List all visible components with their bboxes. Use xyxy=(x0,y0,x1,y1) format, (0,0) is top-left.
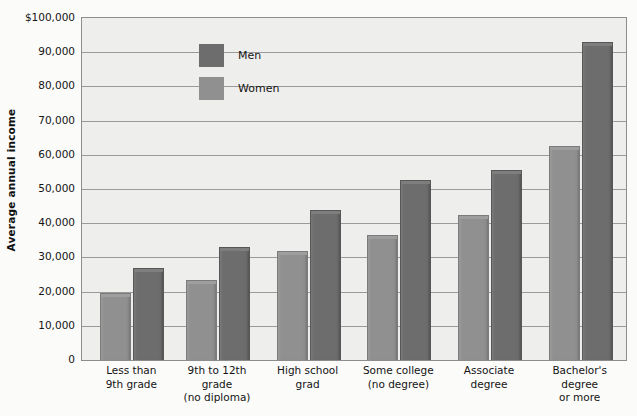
y-axis-tick: 30,000 xyxy=(38,250,75,262)
bar-face xyxy=(100,293,131,360)
bar-women xyxy=(458,215,489,360)
legend-swatch-men xyxy=(199,44,224,67)
bar-face xyxy=(219,247,250,360)
x-axis-label-line: (no degree) xyxy=(353,378,444,392)
bar-top-highlight xyxy=(311,211,340,214)
bar-face xyxy=(186,280,217,360)
x-axis-label-line: High school xyxy=(262,364,353,378)
bar-top-highlight xyxy=(187,281,216,284)
y-axis-title: Average annual income xyxy=(0,0,22,360)
y-axis-tick: 80,000 xyxy=(38,79,75,91)
x-axis-label-line: Less than xyxy=(86,364,177,378)
y-axis-tick: 10,000 xyxy=(38,319,75,331)
x-axis-label: Associatedegree xyxy=(444,364,535,391)
x-axis-label: Bachelor'sdegreeor more xyxy=(534,364,625,405)
y-axis-tick: 50,000 xyxy=(38,182,75,194)
bar-men xyxy=(219,247,250,360)
x-axis-label-line: Some college xyxy=(353,364,444,378)
y-axis-tick: $100,000 xyxy=(25,11,75,23)
plot-area: MenWomen xyxy=(81,17,627,361)
y-axis-tick: 70,000 xyxy=(38,114,75,126)
bar-top-highlight xyxy=(134,269,163,272)
bar-face xyxy=(400,180,431,360)
bar-group xyxy=(367,18,431,360)
x-axis-label-line: (no diploma) xyxy=(172,391,263,405)
bar-face xyxy=(491,170,522,360)
bar-women xyxy=(367,235,398,360)
x-axis-label-line: Associate xyxy=(444,364,535,378)
bar-group xyxy=(277,18,341,360)
bar-men xyxy=(582,42,613,360)
x-axis-label-line: or more xyxy=(534,391,625,405)
x-axis-label: Some college(no degree) xyxy=(353,364,444,391)
bar-group xyxy=(549,18,613,360)
x-axis-label: High schoolgrad xyxy=(262,364,353,391)
x-axis-tick-labels: Less than9th grade9th to 12thgrade(no di… xyxy=(81,364,625,416)
y-axis-tick: 20,000 xyxy=(38,285,75,297)
bar-top-highlight xyxy=(220,248,249,251)
bar-top-highlight xyxy=(368,236,397,239)
x-axis-label-line: 9th to 12th xyxy=(172,364,263,378)
x-axis-label-line: degree xyxy=(534,378,625,392)
bar-men xyxy=(400,180,431,360)
bar-men xyxy=(133,268,164,360)
bars-layer xyxy=(82,18,626,360)
y-axis-tick: 40,000 xyxy=(38,216,75,228)
bar-face xyxy=(310,210,341,360)
bar-women xyxy=(186,280,217,360)
y-axis-tick-labels: $100,00090,00080,00070,00060,00050,00040… xyxy=(22,0,80,416)
x-axis-label-line: degree xyxy=(444,378,535,392)
x-axis-label: Less than9th grade xyxy=(86,364,177,391)
bar-top-highlight xyxy=(583,43,612,46)
x-axis-label: 9th to 12thgrade(no diploma) xyxy=(172,364,263,405)
bar-women xyxy=(549,146,580,360)
legend-swatch-women xyxy=(199,77,224,100)
legend-item-men: Men xyxy=(199,42,279,69)
bar-face xyxy=(549,146,580,360)
bar-men xyxy=(310,210,341,360)
legend-label: Men xyxy=(238,49,261,62)
bar-face xyxy=(582,42,613,360)
bar-top-highlight xyxy=(101,294,130,297)
bar-chart: Average annual income $100,00090,00080,0… xyxy=(0,0,637,416)
y-axis-tick: 90,000 xyxy=(38,45,75,57)
x-axis-label-line: grade xyxy=(172,378,263,392)
bar-top-highlight xyxy=(459,216,488,219)
bar-face xyxy=(277,251,308,360)
x-axis-label-line: Bachelor's xyxy=(534,364,625,378)
bar-women xyxy=(277,251,308,360)
bar-face xyxy=(458,215,489,360)
bar-women xyxy=(100,293,131,360)
bar-men xyxy=(491,170,522,360)
y-axis-tick: 60,000 xyxy=(38,148,75,160)
y-axis-title-text: Average annual income xyxy=(5,109,17,252)
chart-legend: MenWomen xyxy=(199,42,279,108)
legend-label: Women xyxy=(238,82,279,95)
bar-top-highlight xyxy=(278,252,307,255)
bar-face xyxy=(133,268,164,360)
y-axis-tick: 0 xyxy=(68,353,75,365)
bar-top-highlight xyxy=(401,181,430,184)
bar-face xyxy=(367,235,398,360)
bar-group xyxy=(100,18,164,360)
bar-group xyxy=(458,18,522,360)
x-axis-label-line: grad xyxy=(262,378,353,392)
x-axis-label-line: 9th grade xyxy=(86,378,177,392)
legend-item-women: Women xyxy=(199,75,279,102)
bar-top-highlight xyxy=(492,171,521,174)
bar-top-highlight xyxy=(550,147,579,150)
